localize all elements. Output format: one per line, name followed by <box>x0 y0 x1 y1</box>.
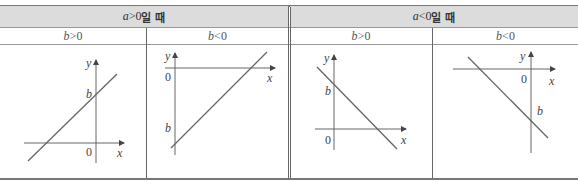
header-suffix: 일 때 <box>431 9 455 25</box>
function-line <box>28 74 117 161</box>
header-suffix: 일 때 <box>141 9 165 25</box>
origin-label: 0 <box>86 145 92 159</box>
line-graph: y b 0 x <box>291 45 432 178</box>
subheader-op: <0 <box>502 29 515 44</box>
subheader-op: >0 <box>70 29 83 44</box>
y-label: y <box>323 51 330 65</box>
line-graph: y 0 b x <box>147 45 288 178</box>
header-a-op: >0 <box>129 9 142 24</box>
intercept-label: b <box>537 104 543 118</box>
x-label: x <box>400 133 407 147</box>
line-graph: y 0 b x <box>433 45 578 178</box>
subheader-b-negative: b<0 <box>433 28 578 44</box>
function-line <box>171 52 267 148</box>
y-label: y <box>519 49 526 63</box>
graph-a-neg-b-pos: y b 0 x <box>291 45 432 178</box>
graph-a-neg-b-neg: y 0 b x <box>433 45 578 178</box>
intercept-label: b <box>325 84 331 98</box>
origin-label: 0 <box>165 70 171 84</box>
subheader-op: >0 <box>358 29 371 44</box>
x-label: x <box>266 71 273 85</box>
y-label: y <box>85 56 92 70</box>
graph-a-pos-b-pos: y b 0 x <box>0 45 146 178</box>
origin-label: 0 <box>521 72 527 86</box>
line-graph: y b 0 x <box>0 45 146 178</box>
subheader-b-negative: b<0 <box>147 28 288 44</box>
origin-label: 0 <box>325 133 331 147</box>
x-label: x <box>116 146 123 160</box>
intercept-label: b <box>165 121 171 135</box>
column-divider-double <box>288 7 289 178</box>
subheader-b-positive: b>0 <box>290 28 432 44</box>
intercept-label: b <box>86 87 92 101</box>
y-label: y <box>164 49 171 63</box>
graph-a-pos-b-neg: y 0 b x <box>147 45 288 178</box>
header-a-positive: a >0 일 때 <box>0 6 288 27</box>
subheader-b-positive: b>0 <box>0 28 146 44</box>
bottom-border <box>0 178 578 180</box>
subheader-op: <0 <box>214 29 227 44</box>
header-a-op: <0 <box>419 9 432 24</box>
x-label: x <box>548 74 555 88</box>
header-a-negative: a <0 일 때 <box>290 6 578 27</box>
